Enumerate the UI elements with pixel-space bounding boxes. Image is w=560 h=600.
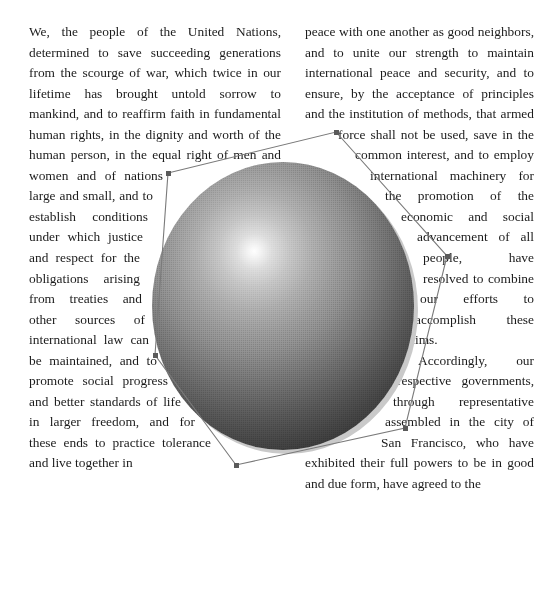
wrap-spacer — [305, 232, 417, 252]
wrap-spacer — [140, 253, 281, 273]
wrap-spacer — [249, 453, 281, 473]
text-column-right: peace with one another as good neighbors… — [305, 22, 534, 495]
wrap-spacer — [305, 392, 389, 412]
wrap-spacer — [148, 213, 281, 233]
wrap-spacer — [229, 433, 281, 453]
wrap-spacer — [149, 313, 281, 333]
wrap-spacer — [163, 173, 281, 193]
wrap-spacer — [153, 193, 281, 213]
wrap-spacer — [305, 412, 385, 432]
wrap-spacer — [305, 432, 381, 452]
wrap-spacer — [142, 273, 281, 293]
wrap-spacer — [305, 152, 355, 172]
wrap-spacer — [305, 332, 403, 352]
wrap-spacer — [157, 333, 281, 353]
wrap-spacer — [271, 473, 281, 493]
wrap-spacer — [211, 413, 281, 433]
wrap-spacer — [305, 352, 397, 372]
wrap-spacer — [305, 132, 338, 152]
wrap-spacer — [305, 312, 409, 332]
wrap-spacer — [143, 233, 281, 253]
wrap-spacer — [305, 212, 401, 232]
wrap-spacer — [145, 293, 281, 313]
page-canvas: We, the people of the United Nations, de… — [0, 0, 560, 600]
text-column-left: We, the people of the United Nations, de… — [29, 22, 281, 493]
wrap-spacer — [305, 172, 370, 192]
wrap-spacer — [305, 292, 415, 312]
wrap-spacer — [181, 373, 281, 393]
wrap-spacer — [168, 353, 281, 373]
wrap-spacer — [305, 252, 423, 272]
wrap-spacer — [195, 393, 281, 413]
wrap-spacer — [305, 272, 420, 292]
wrap-spacer — [305, 192, 385, 212]
wrap-spacer — [305, 372, 393, 392]
